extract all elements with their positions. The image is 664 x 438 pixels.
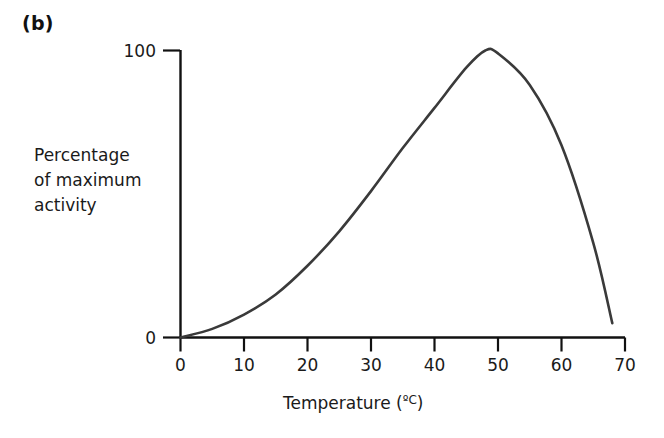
axes-group	[163, 50, 625, 352]
x-tick-label-10: 10	[233, 355, 255, 375]
activity-curve	[181, 49, 613, 338]
x-tick-label-30: 30	[360, 355, 382, 375]
x-tick-marks	[181, 338, 626, 352]
x-tick-label-40: 40	[424, 355, 446, 375]
x-tick-label-20: 20	[297, 355, 319, 375]
y-tick-label-0: 0	[100, 328, 156, 348]
chart-figure: (b) Percentage of maximum activity Tempe…	[0, 0, 664, 438]
x-tick-label-70: 70	[614, 355, 636, 375]
x-tick-label-60: 60	[551, 355, 573, 375]
y-tick-label-100: 100	[100, 41, 156, 61]
x-tick-label-50: 50	[487, 355, 509, 375]
x-tick-label-0: 0	[175, 355, 186, 375]
